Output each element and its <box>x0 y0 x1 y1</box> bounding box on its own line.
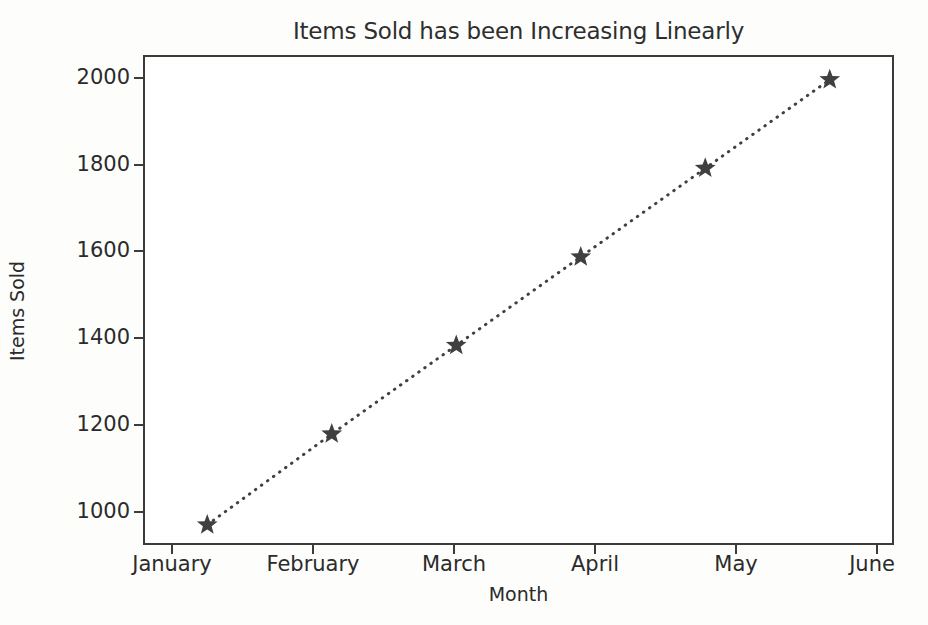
y-tick-mark <box>134 337 143 339</box>
x-tick-label: April <box>571 552 619 576</box>
plot-area <box>143 55 894 545</box>
x-tick-label: May <box>714 552 757 576</box>
data-point-marker <box>321 423 342 443</box>
y-axis-tick-labels: 1000 1200 1400 1600 1800 2000 <box>55 0 130 625</box>
data-point-marker <box>570 246 591 266</box>
y-tick-label: 1200 <box>77 412 130 436</box>
y-axis-label: Items Sold <box>6 231 28 391</box>
x-tick-label: January <box>132 552 212 576</box>
y-tick-label: 1800 <box>77 152 130 176</box>
x-axis-label: Month <box>143 583 894 605</box>
x-tick-label: March <box>422 552 486 576</box>
y-tick-mark <box>134 424 143 426</box>
chart-title: Items Sold has been Increasing Linearly <box>143 18 894 44</box>
y-tick-mark <box>134 511 143 513</box>
chart-figure: Items Sold has been Increasing Linearly … <box>0 0 928 625</box>
data-point-marker <box>197 514 218 534</box>
data-point-marker <box>819 69 840 89</box>
series-line <box>207 80 830 525</box>
x-tick-label: February <box>266 552 359 576</box>
data-series-canvas <box>145 57 892 543</box>
y-tick-mark <box>134 250 143 252</box>
x-tick-label: June <box>849 552 895 576</box>
y-tick-label: 1600 <box>77 238 130 262</box>
y-tick-mark <box>134 164 143 166</box>
y-tick-mark <box>134 77 143 79</box>
y-tick-label: 2000 <box>77 65 130 89</box>
y-tick-label: 1000 <box>77 499 130 523</box>
y-tick-label: 1400 <box>77 325 130 349</box>
